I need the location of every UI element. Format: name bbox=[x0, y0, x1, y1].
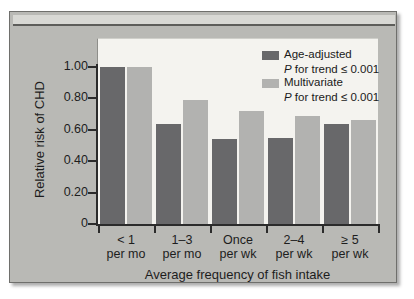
y-axis-tick-label: 1.00 bbox=[42, 59, 88, 73]
legend-p-value: P for trend ≤ 0.001 bbox=[284, 91, 398, 104]
x-axis-tick bbox=[98, 225, 100, 233]
x-axis-category-label: 2–4per wk bbox=[266, 233, 322, 261]
y-axis-line bbox=[96, 64, 98, 226]
category-label-line2: per wk bbox=[266, 247, 322, 261]
x-axis-category-label: < 1per mo bbox=[98, 233, 154, 261]
x-axis-category-label: 1–3per mo bbox=[154, 233, 210, 261]
y-axis-tick bbox=[88, 97, 97, 99]
category-label-line1: 1–3 bbox=[154, 233, 210, 247]
y-axis-tick-label: 0 bbox=[42, 216, 88, 230]
category-label-line2: per mo bbox=[154, 247, 210, 261]
x-axis-tick bbox=[210, 225, 212, 233]
x-axis-category-label: ≥ 5per wk bbox=[322, 233, 378, 261]
x-axis-tick bbox=[266, 225, 268, 233]
legend-label: Multivariate bbox=[284, 76, 343, 89]
legend-p-symbol: P bbox=[284, 91, 292, 103]
category-label-line2: per wk bbox=[322, 247, 378, 261]
legend-p-symbol: P bbox=[284, 63, 292, 75]
x-axis-tick bbox=[154, 225, 156, 233]
y-axis-tick bbox=[88, 160, 97, 162]
y-axis-tick bbox=[88, 192, 97, 194]
x-axis-title: Average frequency of fish intake bbox=[97, 267, 378, 282]
chart-legend: Age-adjustedP for trend ≤ 0.001Multivari… bbox=[262, 48, 398, 104]
y-axis-tick-label: 0.60 bbox=[42, 122, 88, 136]
legend-swatch-icon bbox=[262, 79, 279, 88]
y-axis-tick-label: 0.80 bbox=[42, 90, 88, 104]
category-label-line1: ≥ 5 bbox=[322, 233, 378, 247]
category-label-line2: per mo bbox=[98, 247, 154, 261]
x-axis-category-label: Onceper wk bbox=[210, 233, 266, 261]
legend-entry: Age-adjusted bbox=[262, 48, 398, 61]
category-label-line1: Once bbox=[210, 233, 266, 247]
y-axis-tick bbox=[88, 223, 97, 225]
category-label-line1: < 1 bbox=[98, 233, 154, 247]
figure-frame: 1.000.800.600.400.200 < 1per mo1–3per mo… bbox=[9, 11, 397, 283]
x-axis-tick bbox=[378, 225, 380, 233]
category-label-line1: 2–4 bbox=[266, 233, 322, 247]
y-axis-tick bbox=[88, 129, 97, 131]
legend-entry: Multivariate bbox=[262, 76, 398, 89]
x-axis-line bbox=[96, 224, 380, 226]
legend-label: Age-adjusted bbox=[284, 48, 352, 61]
y-axis-tick-label: 0.40 bbox=[42, 153, 88, 167]
x-axis-tick bbox=[322, 225, 324, 233]
y-axis-tick bbox=[88, 66, 97, 68]
y-axis-title: Relative risk of CHD bbox=[32, 65, 47, 215]
y-axis-tick-label: 0.20 bbox=[42, 185, 88, 199]
category-label-line2: per wk bbox=[210, 247, 266, 261]
legend-swatch-icon bbox=[262, 51, 279, 60]
legend-p-value: P for trend ≤ 0.001 bbox=[284, 63, 398, 76]
